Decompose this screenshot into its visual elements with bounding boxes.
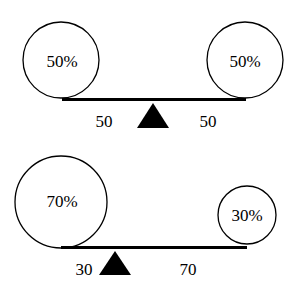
seesaw-diagrams: 50% 50% 50 50 70% 30% 30 70 (0, 0, 300, 290)
right-distance-label: 50 (200, 112, 217, 131)
left-distance-label: 50 (96, 112, 113, 131)
fulcrum-triangle (137, 103, 169, 128)
seesaw-top: 50% 50% 50 50 (23, 22, 283, 131)
left-weight-label: 70% (46, 192, 77, 211)
right-weight-label: 50% (229, 52, 260, 71)
right-distance-label: 70 (180, 260, 197, 279)
right-weight-label: 30% (231, 206, 262, 225)
fulcrum-triangle (99, 251, 131, 275)
left-distance-label: 30 (76, 260, 93, 279)
left-weight-label: 50% (46, 52, 77, 71)
beam (62, 98, 246, 101)
seesaw-bottom: 70% 30% 30 70 (15, 156, 276, 279)
beam (61, 246, 247, 249)
